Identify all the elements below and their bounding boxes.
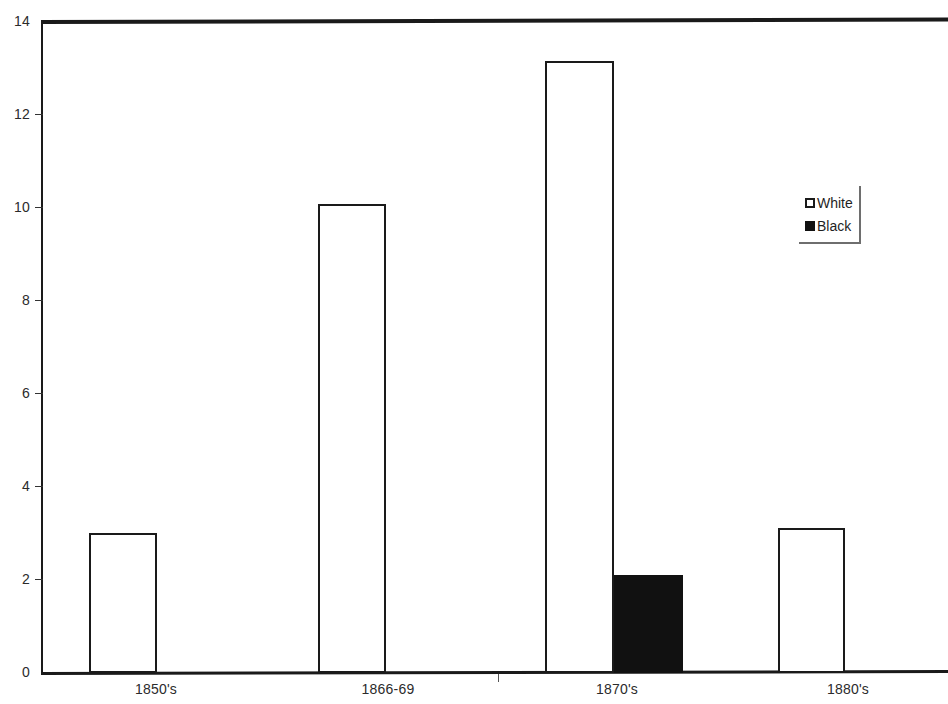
legend-swatch-white-icon: [805, 198, 815, 208]
y-axis-tick-12: [35, 114, 43, 115]
y-axis-label-10: 10: [4, 200, 30, 214]
x-axis-label-1880s: 1880's: [827, 681, 869, 697]
bar-white-1850s: [89, 533, 157, 673]
bar-black-1870s: [614, 575, 683, 673]
plot-top-border: [41, 17, 948, 24]
bar-white-1880s: [778, 528, 845, 673]
y-axis-label-14: 14: [4, 14, 30, 28]
y-axis-tick-2: [35, 579, 43, 580]
y-axis-label-4: 4: [4, 479, 30, 493]
y-axis-label-8: 8: [4, 293, 30, 307]
x-axis-label-1870s: 1870's: [596, 681, 638, 697]
x-axis-label-1850s: 1850's: [135, 681, 177, 697]
x-axis-label-1866-69: 1866-69: [362, 681, 415, 697]
y-axis-tick-6: [35, 393, 43, 394]
y-axis-tick-10: [35, 207, 43, 208]
legend-label-black: Black: [817, 218, 851, 234]
y-axis-tick-8: [35, 300, 43, 301]
legend-swatch-black-icon: [805, 221, 815, 231]
y-axis-tick-4: [35, 486, 43, 487]
chart-legend: White Black: [799, 186, 861, 244]
bar-white-1870s: [545, 61, 614, 673]
y-axis-label-6: 6: [4, 386, 30, 400]
y-axis-label-0: 0: [4, 665, 30, 679]
x-axis-tick-mid: [498, 674, 499, 682]
legend-label-white: White: [817, 195, 853, 211]
bar-chart: 14 12 10 8 6 4 2 0 1850's 1866-69 1870's…: [0, 0, 948, 704]
y-axis-label-2: 2: [4, 572, 30, 586]
legend-item-black: Black: [805, 214, 855, 237]
bar-white-1866-69: [318, 204, 386, 673]
y-axis-line: [41, 21, 43, 674]
legend-item-white: White: [805, 191, 855, 214]
y-axis-label-12: 12: [4, 107, 30, 121]
